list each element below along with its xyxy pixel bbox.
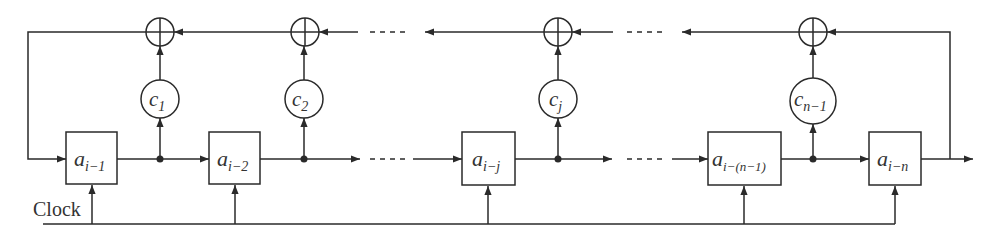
register-a-i-j: ai−j — [462, 132, 515, 185]
adder-2 — [291, 18, 319, 46]
lfsr-diagram: c1 c2 cj cn−1 ai−1 — [0, 0, 999, 245]
tap-j: cj — [539, 46, 577, 163]
register-a-i-n: ai−n — [869, 132, 921, 185]
adder-n-1 — [799, 18, 827, 46]
register-a-i-1: ai−1 — [66, 132, 117, 184]
adder-1 — [146, 18, 174, 46]
register-a-i-n-1: ai−(n−1) — [708, 132, 781, 185]
tap-2: c2 — [285, 46, 323, 163]
clock-bus: Clock — [33, 185, 895, 224]
clock-label: Clock — [33, 198, 81, 220]
register-a-i-2: ai−2 — [209, 132, 260, 184]
adder-j — [544, 18, 572, 46]
tap-1: c1 — [141, 46, 179, 163]
tap-n-1: cn−1 — [790, 46, 836, 163]
